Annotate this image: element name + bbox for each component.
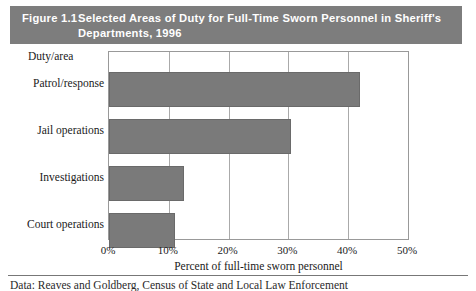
x-tick-50: 50%: [382, 244, 432, 256]
category-label-court-operations: Court operations: [0, 218, 104, 230]
x-tick-30: 30%: [262, 244, 312, 256]
figure-number-label: Figure 1.1: [22, 11, 78, 26]
footer-divider: [8, 275, 468, 276]
figure-title-line-1: Figure 1.1Selected Areas of Duty for Ful…: [22, 11, 452, 26]
bar-patrol-response: [109, 72, 360, 107]
bar-jail-operations: [109, 119, 291, 154]
y-axis-title: Duty/area: [28, 50, 73, 62]
x-axis-title: Percent of full-time sworn personnel: [108, 260, 409, 272]
source-note: Data: Reaves and Goldberg, Census of Sta…: [10, 279, 466, 291]
x-tick-40: 40%: [322, 244, 372, 256]
bar-chart: Duty/area Patrol/response Jail operation…: [0, 44, 476, 270]
bar-investigations: [109, 166, 184, 201]
category-label-jail-operations: Jail operations: [0, 124, 104, 136]
category-label-patrol-response: Patrol/response: [0, 77, 104, 89]
figure-title-line-2: Departments, 1996: [22, 26, 452, 41]
x-tick-20: 20%: [203, 244, 253, 256]
figure-title-banner: Figure 1.1Selected Areas of Duty for Ful…: [10, 6, 462, 44]
bar-court-operations: [109, 213, 175, 248]
plot-area: [108, 51, 409, 240]
category-label-investigations: Investigations: [0, 171, 104, 183]
figure-title-text-1: Selected Areas of Duty for Full-Time Swo…: [78, 12, 441, 24]
x-tick-0: 0%: [83, 244, 133, 256]
x-tick-10: 10%: [143, 244, 193, 256]
